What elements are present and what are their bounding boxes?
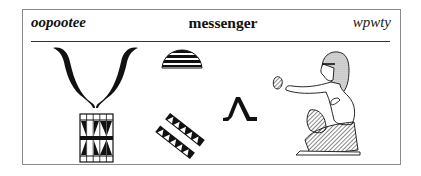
walking-legs-icon — [223, 97, 257, 121]
bread-loaf-icon — [160, 50, 205, 68]
decorated-box-icon — [80, 114, 113, 162]
hieroglyph-canvas — [0, 0, 421, 176]
cord-bands-icon — [155, 113, 204, 159]
horns-icon — [53, 48, 138, 108]
seated-man-icon — [273, 52, 360, 155]
